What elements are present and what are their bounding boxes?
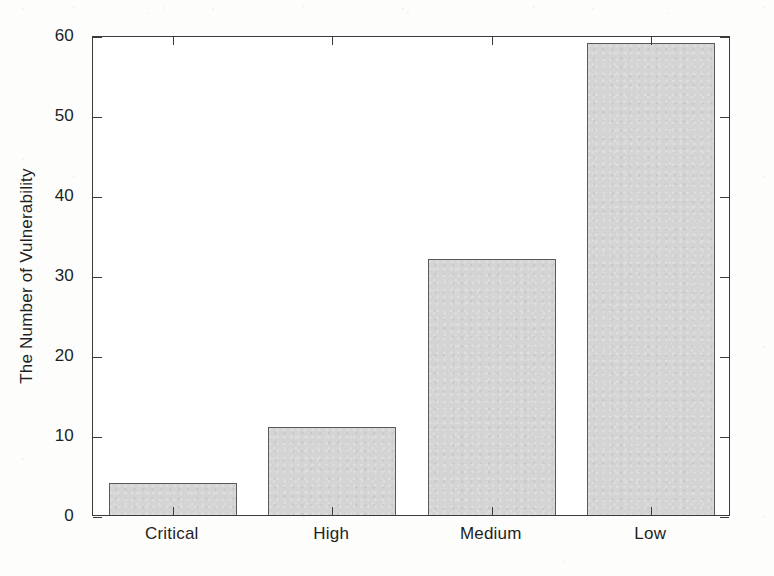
y-tick-left-10 xyxy=(93,437,102,438)
y-tick-right-50 xyxy=(720,117,729,118)
bar-high xyxy=(268,427,396,515)
x-tick-label-high: High xyxy=(313,524,349,544)
x-tick-label-medium: Medium xyxy=(460,524,522,544)
x-tick-top-high xyxy=(332,37,333,45)
x-tick-label-critical: Critical xyxy=(145,524,199,544)
plot-area xyxy=(92,36,730,516)
y-tick-left-30 xyxy=(93,277,102,278)
y-tick-label-0: 0 xyxy=(14,506,74,526)
x-tick-bottom-critical xyxy=(173,507,174,515)
x-tick-top-low xyxy=(651,37,652,45)
x-axis-tick-labels: CriticalHighMediumLow xyxy=(92,524,730,554)
y-tick-right-60 xyxy=(720,37,729,38)
y-tick-left-60 xyxy=(93,37,102,38)
x-tick-bottom-high xyxy=(332,507,333,515)
y-tick-right-10 xyxy=(720,437,729,438)
y-tick-left-0 xyxy=(93,517,102,518)
x-tick-bottom-low xyxy=(651,507,652,515)
y-tick-left-50 xyxy=(93,117,102,118)
x-tick-label-low: Low xyxy=(634,524,666,544)
x-tick-top-medium xyxy=(492,37,493,45)
y-tick-label-20: 20 xyxy=(14,346,74,366)
bars-layer xyxy=(93,37,729,515)
y-axis-tick-labels: 0102030405060 xyxy=(0,36,84,516)
y-tick-label-10: 10 xyxy=(14,426,74,446)
y-tick-right-30 xyxy=(720,277,729,278)
y-tick-left-40 xyxy=(93,197,102,198)
y-tick-label-50: 50 xyxy=(14,106,74,126)
y-tick-right-0 xyxy=(720,517,729,518)
bar-low xyxy=(587,43,715,515)
x-tick-bottom-medium xyxy=(492,507,493,515)
x-tick-top-critical xyxy=(173,37,174,45)
y-tick-label-40: 40 xyxy=(14,186,74,206)
y-tick-label-60: 60 xyxy=(14,26,74,46)
bar-medium xyxy=(428,259,556,515)
bar-chart-figure: The Number of Vulnerability 010203040506… xyxy=(0,0,774,576)
y-tick-label-30: 30 xyxy=(14,266,74,286)
y-tick-right-40 xyxy=(720,197,729,198)
y-tick-right-20 xyxy=(720,357,729,358)
y-tick-left-20 xyxy=(93,357,102,358)
